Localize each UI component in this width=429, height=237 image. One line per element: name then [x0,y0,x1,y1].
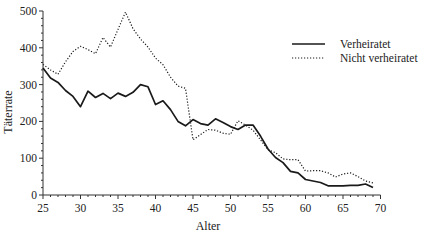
y-axis: 0100200300400500 [20,5,43,201]
x-axis-label: Alter [196,219,221,233]
x-tick-label: 50 [225,202,237,214]
line-chart: 0100200300400500 25303540455055606570 Tä… [0,0,429,237]
x-axis: 25303540455055606570 [37,195,386,214]
y-tick-label: 0 [31,189,37,201]
x-tick-label: 25 [37,202,49,214]
chart-container: 0100200300400500 25303540455055606570 Tä… [0,0,429,237]
legend-label-nicht-verheiratet: Nicht verheiratet [340,52,418,64]
y-tick-label: 200 [20,115,38,127]
x-tick-label: 55 [262,202,274,214]
x-tick-label: 40 [150,202,162,214]
series-line-nicht-verheiratet [43,12,373,183]
x-tick-label: 65 [337,202,349,214]
x-tick-label: 60 [300,202,312,214]
x-tick-label: 35 [112,202,124,214]
legend-label-verheiratet: Verheiratet [340,38,391,50]
y-tick-label: 300 [20,79,38,91]
y-tick-label: 100 [20,152,38,164]
y-tick-label: 500 [20,5,38,17]
legend: Verheiratet Nicht verheiratet [292,38,418,64]
series-lines [43,12,373,188]
y-axis-label: Täterrate [1,90,15,133]
x-tick-label: 30 [75,202,87,214]
y-tick-label: 400 [20,42,38,54]
x-tick-label: 45 [187,202,199,214]
series-line-verheiratet [43,68,373,188]
x-tick-label: 70 [375,202,387,214]
